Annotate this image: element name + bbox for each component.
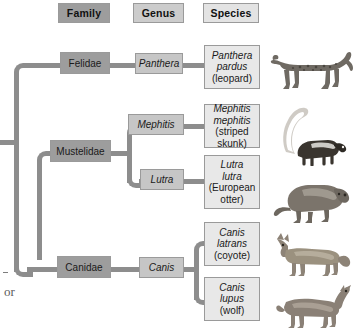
species-binomial-line2: lutra (222, 171, 241, 183)
taxon-box-panthera-pardus[interactable]: Panthera pardus (leopard) (204, 45, 260, 89)
taxon-box-canidae[interactable]: Canidae (57, 256, 111, 278)
cladogram-diagram: Family Genus Species Felidae Mustelidae … (0, 0, 357, 331)
connector-to-felidae (27, 63, 61, 68)
species-binomial-line2: mephitis (213, 115, 250, 127)
connector-panthera-to-species (182, 63, 206, 68)
column-header-genus: Genus (133, 3, 184, 23)
connector-lutra-to-species (183, 179, 206, 184)
taxon-label-canidae: Canidae (65, 262, 102, 273)
animal-photo-leopard (268, 40, 354, 92)
species-binomial-line2: pardus (217, 61, 248, 73)
taxon-box-mephitis[interactable]: Mephitis (128, 114, 184, 135)
taxon-box-mustelidae[interactable]: Mustelidae (50, 140, 111, 162)
taxon-box-lutra-lutra[interactable]: Lutra lutra (European otter) (204, 155, 260, 209)
taxon-box-canis[interactable]: Canis (139, 257, 184, 278)
taxon-box-lutra[interactable]: Lutra (140, 169, 184, 190)
margin-text-fragment: or (4, 284, 15, 300)
animal-photo-coyote (272, 228, 352, 278)
margin-text-dash (3, 272, 8, 273)
species-binomial-line1: Panthera (212, 50, 253, 62)
taxon-label-mephitis: Mephitis (137, 119, 174, 130)
species-binomial-line2: latrans (217, 238, 247, 250)
species-binomial-line1: Canis (219, 227, 245, 239)
connector-trunk (14, 72, 19, 272)
species-binomial-line1: Canis (219, 282, 245, 294)
connector-to-canidae (27, 267, 61, 272)
taxon-box-felidae[interactable]: Felidae (60, 52, 110, 74)
species-common-name: (coyote) (214, 250, 250, 262)
taxon-box-canis-lupus[interactable]: Canis lupus (wolf) (204, 277, 260, 321)
species-common-name: (leopard) (212, 73, 252, 85)
connector-felidae-to-panthera (108, 63, 138, 68)
species-common-name: (wolf) (220, 305, 244, 317)
taxon-label-lutra: Lutra (151, 174, 174, 185)
taxon-box-canis-latrans[interactable]: Canis latrans (coyote) (204, 222, 260, 266)
species-binomial-line1: Lutra (221, 159, 244, 171)
species-common-name: (European (209, 182, 256, 194)
taxon-box-panthera[interactable]: Panthera (135, 53, 183, 74)
taxon-label-felidae: Felidae (69, 58, 102, 69)
taxon-label-mustelidae: Mustelidae (56, 146, 104, 157)
animal-photo-european-otter (272, 170, 352, 224)
species-common-name: (striped skunk) (206, 126, 258, 149)
taxon-label-canis: Canis (149, 262, 175, 273)
connector-canidae-to-canis (110, 267, 142, 272)
species-binomial-line2: lupus (220, 293, 244, 305)
species-common-name-cont: otter) (220, 194, 243, 206)
column-header-species: Species (203, 3, 259, 23)
species-binomial-line1: Mephitis (213, 103, 250, 115)
column-header-family: Family (58, 3, 110, 23)
taxon-box-mephitis-mephitis[interactable]: Mephitis mephitis (striped skunk) (204, 104, 260, 148)
animal-photo-wolf (276, 282, 352, 330)
animal-photo-striped-skunk (276, 104, 350, 166)
connector-mephitis-to-species (183, 124, 206, 129)
connector-mustelidae-riser (37, 160, 42, 260)
taxon-label-panthera: Panthera (139, 58, 180, 69)
